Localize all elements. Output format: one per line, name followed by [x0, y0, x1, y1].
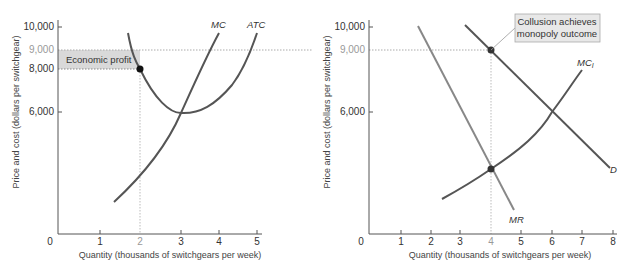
right-xtick-5: 5: [518, 236, 524, 247]
profit-point: [137, 66, 144, 73]
right-xtick-2: 2: [428, 236, 434, 247]
left-origin: 0: [47, 236, 53, 247]
right-xtick-1: 1: [398, 236, 404, 247]
right-xtick-6: 6: [549, 236, 555, 247]
left-ytick-6000: 6,000: [29, 106, 54, 117]
right-ytick-9000: 9,000: [340, 44, 365, 55]
left-y-axis-title: Price and cost (dollars per switchgear): [11, 35, 21, 188]
left-xtick-1: 1: [97, 236, 103, 247]
right-y-axis-title: Price and cost (dollars per switchgear): [322, 35, 332, 188]
callout-leader: [491, 28, 515, 50]
atc-label: ATC: [246, 19, 265, 30]
d-label: D: [610, 164, 617, 175]
callout-line-2: monopoly outcome: [517, 28, 597, 39]
right-origin: 0: [358, 236, 364, 247]
mr-curve: [418, 26, 514, 210]
right-ytick-10000: 10,000: [334, 21, 365, 32]
left-xtick-2: 2: [137, 236, 143, 247]
left-ytick-8000: 8,000: [29, 63, 54, 74]
left-ytick-10000: 10,000: [23, 21, 54, 32]
demand-curve: [465, 25, 610, 168]
atc-curve: [128, 33, 257, 113]
callout-line-1: Collusion achieves: [517, 16, 596, 27]
right-xtick-4: 4: [488, 236, 494, 247]
mc-subscript: I: [592, 62, 594, 69]
left-xtick-4: 4: [216, 236, 222, 247]
right-xtick-7: 7: [579, 236, 585, 247]
right-x-axis-title: Quantity (thousands of switchgears per w…: [409, 250, 592, 260]
chart-canvas: 10,000 9,000 8,000 6,000 0 1 2 3 4 5 Qua…: [0, 0, 624, 273]
left-ytick-9000: 9,000: [29, 44, 54, 55]
left-chart: 10,000 9,000 8,000 6,000 0 1 2 3 4 5 Qua…: [11, 19, 312, 260]
right-xtick-8: 8: [610, 236, 616, 247]
mc-industry-curve: [442, 70, 582, 199]
right-xtick-3: 3: [457, 236, 463, 247]
economic-profit-label: Economic profit: [66, 54, 132, 65]
mr-mc-intersection-point: [488, 166, 495, 173]
right-ytick-6000: 6,000: [340, 106, 365, 117]
mc-label: MC: [211, 19, 226, 30]
left-xtick-3: 3: [178, 236, 184, 247]
right-chart: 10,000 9,000 6,000 0 1 2 3 4 5 6 7 8 Qua…: [322, 14, 617, 260]
left-xtick-5: 5: [254, 236, 260, 247]
mr-label: MR: [509, 214, 524, 225]
mc-industry-label: MCI: [577, 57, 594, 69]
left-x-axis-title: Quantity (thousands of switchgears per w…: [79, 250, 262, 260]
